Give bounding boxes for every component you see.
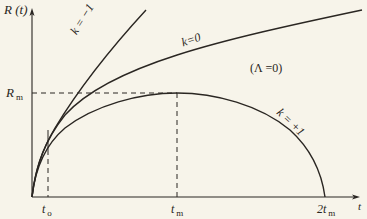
- t-2max-label: 2tm: [317, 203, 335, 215]
- r-max-sub: m: [16, 92, 23, 102]
- t-max-symbol: t: [171, 202, 174, 216]
- t-0-sub: o: [47, 208, 52, 218]
- x-axis-label: t: [358, 201, 361, 212]
- lambda-condition-label: (Λ =0): [250, 62, 282, 74]
- t-2max-symbol: 2t: [317, 202, 326, 216]
- y-axis-label: R (t): [4, 3, 27, 16]
- t-max-label: tm: [171, 203, 183, 215]
- t-0-label: to: [42, 203, 52, 215]
- guide-lines: [32, 93, 177, 197]
- friedmann-diagram: [0, 0, 367, 219]
- t-max-sub: m: [176, 208, 183, 218]
- r-max-symbol: R: [6, 85, 14, 100]
- t-2max-sub: m: [328, 208, 335, 218]
- r-max-label: Rm: [6, 86, 23, 99]
- t-0-symbol: t: [42, 202, 45, 216]
- curve-k-minus-1: [32, 10, 146, 197]
